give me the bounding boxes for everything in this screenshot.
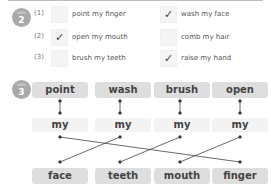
connection-lines xyxy=(0,0,271,188)
